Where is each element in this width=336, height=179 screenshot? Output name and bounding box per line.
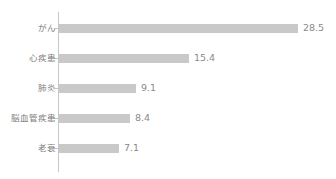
bar-row: 脳血管疾患 8.4 (0, 104, 336, 134)
bar-row: 心疾患 15.4 (0, 44, 336, 74)
bar-row: 肺炎 9.1 (0, 74, 336, 104)
bar (59, 114, 130, 123)
value-label: 9.1 (141, 81, 156, 95)
plot-area: がん 28.5 心疾患 15.4 肺炎 9.1 脳血管疾患 8.4 老衰 7. (0, 0, 336, 179)
category-label: 脳血管疾患 (11, 111, 56, 125)
category-label: 肺炎 (38, 81, 56, 95)
bar (59, 84, 136, 93)
bar (59, 24, 298, 33)
bar (59, 54, 189, 63)
value-label: 15.4 (194, 51, 215, 65)
value-label: 7.1 (124, 141, 139, 155)
value-label: 28.5 (303, 21, 324, 35)
category-label: 老衰 (38, 141, 56, 155)
bar-chart: がん 28.5 心疾患 15.4 肺炎 9.1 脳血管疾患 8.4 老衰 7. (0, 0, 336, 179)
bar-row: 老衰 7.1 (0, 134, 336, 164)
category-label: がん (38, 21, 56, 35)
bar (59, 144, 119, 153)
bar-row: がん 28.5 (0, 14, 336, 44)
value-label: 8.4 (135, 111, 150, 125)
category-label: 心疾患 (29, 51, 56, 65)
